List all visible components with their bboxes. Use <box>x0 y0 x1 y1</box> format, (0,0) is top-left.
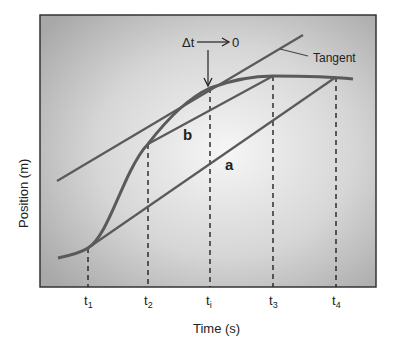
position-time-diagram: Δt 0 Tangent b a t1 t2 ti t3 t4 Time (s)… <box>0 0 397 345</box>
secant-b-label: b <box>183 126 192 143</box>
delta-t-label: Δt <box>182 35 195 50</box>
tick-ti: ti <box>206 293 212 310</box>
tick-t1: t1 <box>84 293 93 310</box>
tangent-label: Tangent <box>313 51 356 65</box>
tick-t3: t3 <box>269 293 278 310</box>
y-axis-label: Position (m) <box>16 159 31 228</box>
limit-target-label: 0 <box>232 35 239 50</box>
x-tick-labels: t1 t2 ti t3 t4 <box>84 293 341 310</box>
tick-t2: t2 <box>144 293 153 310</box>
secant-a-label: a <box>225 156 234 173</box>
x-axis-label: Time (s) <box>193 321 240 336</box>
tick-t4: t4 <box>332 293 341 310</box>
